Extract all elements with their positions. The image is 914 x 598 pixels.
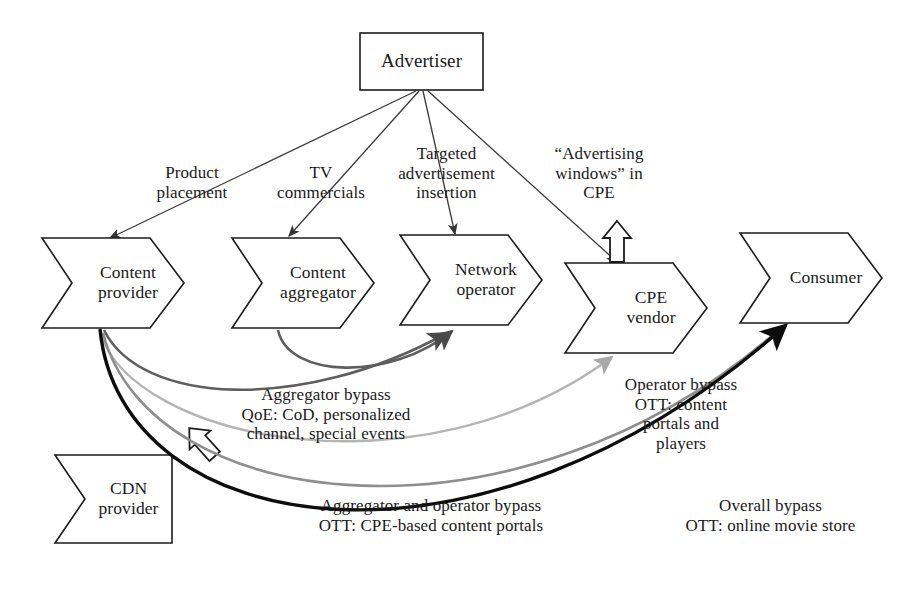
edge-label-overall-bypass: Overall bypass OTT: online movie store [654,496,887,535]
node-content-provider-label: Content provider [72,262,184,303]
node-advertiser-label: Advertiser [360,50,483,72]
edge-label-targeted-advertisement-insertion: Targeted advertisement insertion [375,144,518,203]
node-content-aggregator-label: Content aggregator [262,262,374,303]
node-cdn-provider-label: CDN provider [85,478,172,519]
edge-label-tv-commercials: TV commercials [257,163,385,202]
diagram-canvas: Advertiser Content provider Content aggr… [0,0,914,598]
edge-label-aggregator-bypass: Aggregator bypass QoE: CoD, personalized… [180,385,472,444]
edge-label-operator-bypass: Operator bypass OTT: content portals and… [601,375,761,454]
node-network-operator-label: Network operator [430,259,542,300]
edge-label-aggregator-and-operator-bypass: Aggregator and operator bypass OTT: CPE-… [281,496,581,535]
node-consumer-label: Consumer [770,267,882,287]
node-cpe-vendor-label: CPE vendor [595,287,707,328]
edge-label-advertising-windows: “Advertising windows” in CPE [529,144,669,203]
curve-aggregator-to-network-operator [278,330,452,368]
edge-label-product-placement: Product placement [128,163,256,202]
hollow-up-arrow-cpe [603,221,631,262]
